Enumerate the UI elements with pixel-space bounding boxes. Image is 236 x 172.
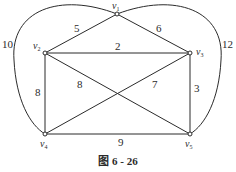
weight-right-bottom-right: 3 (194, 82, 200, 94)
edge-top-left (45, 14, 117, 53)
weight-curve-right: 12 (222, 38, 233, 50)
vertex-label-top: v1 (112, 0, 119, 12)
weight-top-left: 5 (74, 22, 80, 34)
edge-top-right (117, 14, 190, 53)
vertex-bottom-left (43, 132, 47, 136)
weighted-graph: 5 6 2 8 8 7 3 9 10 12 v1 v2 v3 v4 v5 (0, 0, 236, 172)
vertex-label-right: v3 (196, 46, 203, 58)
weight-right-bottom-left: 7 (152, 78, 158, 90)
weight-curve-left: 10 (2, 38, 14, 50)
edge-curve-top-bottom-left (14, 5, 117, 134)
figure-caption: 图 6 - 26 (0, 152, 236, 168)
vertex-right (188, 51, 192, 55)
weight-left-bottom-right: 8 (77, 78, 83, 90)
edge-curve-top-bottom-right (117, 5, 221, 134)
weight-bottom-left-bottom-right: 9 (118, 136, 124, 148)
vertex-label-bottom-left: v4 (40, 138, 47, 150)
weight-left-right: 2 (115, 40, 121, 52)
weight-left-bottom-left: 8 (35, 86, 41, 98)
vertex-label-left: v2 (33, 40, 40, 52)
vertex-left (43, 51, 47, 55)
vertex-top (115, 12, 119, 16)
vertex-label-bottom-right: v5 (185, 138, 192, 150)
vertex-bottom-right (188, 132, 192, 136)
weight-top-right: 6 (156, 22, 162, 34)
